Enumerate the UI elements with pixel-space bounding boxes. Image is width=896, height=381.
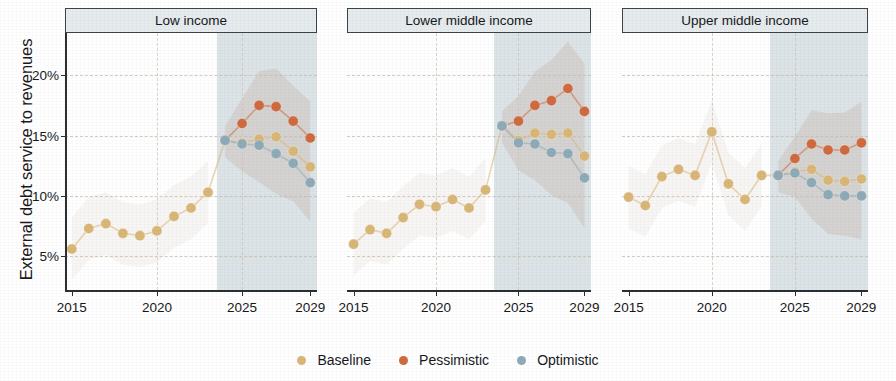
x-axis-tick [584, 290, 585, 296]
y-axis-tick [61, 75, 67, 76]
legend-item-label: Optimistic [537, 352, 598, 368]
data-point-marker [288, 116, 298, 126]
data-point-marker [563, 83, 573, 93]
chart-legend: BaselinePessimisticOptimistic [0, 352, 896, 368]
data-point-marker [305, 133, 315, 143]
x-axis-tick-label: 2020 [421, 300, 451, 315]
data-point-marker [237, 118, 247, 128]
data-point-marker [806, 139, 816, 149]
y-axis-tick-label: 20% [32, 68, 59, 83]
data-point-marker [513, 116, 523, 126]
chart-panel: Upper middle income2015202020252029 [622, 8, 868, 334]
series-canvas [347, 33, 591, 290]
data-point-marker [757, 170, 767, 180]
legend-marker-icon [399, 356, 408, 365]
data-point-marker [186, 203, 196, 213]
history-uncertainty-band [629, 101, 762, 237]
data-point-marker [169, 211, 179, 221]
data-point-marker [790, 153, 800, 163]
history-uncertainty-band [72, 161, 208, 280]
data-point-marker [305, 178, 315, 188]
data-point-marker [563, 128, 573, 138]
y-axis-tick [61, 136, 67, 137]
x-axis-tick-label: 2025 [227, 300, 257, 315]
data-point-marker [271, 149, 281, 159]
data-point-marker [254, 140, 264, 150]
x-axis-tick [157, 290, 158, 296]
x-axis-tick [242, 290, 243, 296]
data-point-marker [579, 173, 589, 183]
data-point-marker [101, 219, 111, 229]
data-point-marker [640, 200, 650, 210]
y-axis-tick [61, 256, 67, 257]
y-axis-tick-label: 10% [32, 188, 59, 203]
data-point-marker [823, 145, 833, 155]
data-point-marker [349, 239, 359, 249]
data-point-marker [254, 100, 264, 110]
x-axis-tick [712, 290, 713, 296]
data-point-marker [530, 128, 540, 138]
panel-title-box: Lower middle income [347, 8, 591, 33]
data-point-marker [220, 135, 230, 145]
x-axis-tick-label: 2025 [503, 300, 533, 315]
data-point-marker [773, 170, 783, 180]
x-axis-line [347, 290, 591, 292]
legend-item[interactable]: Optimistic [517, 352, 598, 368]
data-point-marker [840, 176, 850, 186]
legend-item[interactable]: Pessimistic [399, 352, 489, 368]
data-point-marker [723, 179, 733, 189]
data-point-marker [398, 213, 408, 223]
history-uncertainty-band [354, 159, 486, 276]
x-axis-tick-label: 2015 [614, 300, 644, 315]
chart-panel: Low income20152020202520295%10%15%20% [65, 8, 317, 334]
data-point-marker [563, 149, 573, 159]
data-point-marker [480, 185, 490, 195]
data-point-marker [579, 151, 589, 161]
legend-item-label: Pessimistic [419, 352, 489, 368]
y-axis-tick [61, 196, 67, 197]
data-point-marker [546, 147, 556, 157]
x-axis-tick-label: 2029 [569, 300, 599, 315]
data-point-marker [135, 231, 145, 241]
data-point-marker [288, 146, 298, 156]
data-point-marker [271, 102, 281, 112]
series-canvas [622, 33, 868, 290]
legend-item[interactable]: Baseline [297, 352, 371, 368]
data-point-marker [579, 106, 589, 116]
x-axis-tick [629, 290, 630, 296]
data-point-marker [673, 164, 683, 174]
data-point-marker [414, 199, 424, 209]
data-point-marker [856, 191, 866, 201]
data-point-marker [513, 138, 523, 148]
data-point-marker [624, 192, 634, 202]
data-point-marker [365, 225, 375, 235]
x-axis-tick [436, 290, 437, 296]
x-axis-line [622, 290, 868, 292]
data-point-marker [546, 129, 556, 139]
data-point-marker [806, 164, 816, 174]
x-axis-tick-label: 2020 [142, 300, 172, 315]
plot-area [65, 33, 317, 290]
y-axis-line: 5%10%15%20% [65, 33, 67, 292]
data-point-marker [464, 203, 474, 213]
chart-figure: External debt service to revenues Low in… [0, 0, 896, 381]
data-point-marker [856, 138, 866, 148]
x-axis-tick-label: 2015 [57, 300, 87, 315]
y-axis-title: External debt service to revenues [17, 10, 36, 310]
y-axis-tick-label: 5% [39, 249, 59, 264]
data-point-marker [497, 121, 507, 131]
data-point-marker [288, 158, 298, 168]
panel-title-label: Low income [66, 13, 316, 28]
x-axis-tick-label: 2015 [339, 300, 369, 315]
plot-area [347, 33, 591, 290]
data-point-marker [823, 175, 833, 185]
x-axis-tick [861, 290, 862, 296]
x-axis-tick [518, 290, 519, 296]
legend-marker-icon [517, 356, 526, 365]
panel-title-label: Lower middle income [348, 13, 590, 28]
panel-title-box: Upper middle income [622, 8, 868, 33]
data-point-marker [431, 202, 441, 212]
x-axis-tick-label: 2025 [780, 300, 810, 315]
panel-title-box: Low income [65, 8, 317, 33]
data-point-marker [271, 132, 281, 142]
